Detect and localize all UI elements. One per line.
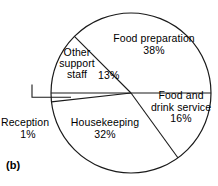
- slice-value-food-and-drink-service: 16%: [144, 113, 218, 125]
- slice-value-reception: 1%: [1, 129, 55, 141]
- slice-label-reception: Reception 1%: [1, 117, 63, 140]
- slice-label-food-preparation-text: Food preparation: [113, 32, 195, 44]
- figure-caption: (b): [6, 159, 20, 171]
- slice-label-food-and-drink-service-line2: drink service: [151, 101, 211, 113]
- figure-panel: Food preparation 38% Other support staff…: [0, 0, 218, 186]
- slice-value-other-support-staff: 13%: [98, 70, 124, 82]
- slice-label-reception-text: Reception: [1, 116, 49, 128]
- slice-label-housekeeping: Housekeeping 32%: [61, 117, 149, 140]
- slice-label-food-preparation: Food preparation 38%: [108, 33, 200, 56]
- slice-value-food-preparation: 38%: [108, 45, 200, 57]
- slice-label-housekeeping-text: Housekeeping: [71, 116, 139, 128]
- slice-value-housekeeping: 32%: [61, 129, 149, 141]
- slice-label-food-and-drink-service-line1: Food and: [158, 89, 203, 101]
- slice-value-other-support-staff-text: 13%: [98, 69, 119, 81]
- slice-label-other-support-staff-line3: staff: [67, 68, 87, 80]
- slice-label-other-support-staff: Other support staff: [52, 47, 102, 80]
- slice-label-food-and-drink-service: Food and drink service 16%: [144, 90, 218, 125]
